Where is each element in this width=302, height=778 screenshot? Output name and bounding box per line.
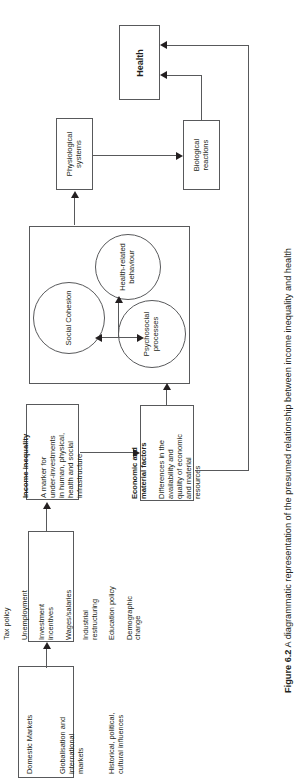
node-social-cohesion-label: Social Cohesion (65, 284, 74, 352)
node-contributors-item-7: Demographic change (125, 534, 142, 640)
node-determinants: Determinants of income inequality Govern… (18, 666, 74, 778)
node-income-inequality: Income inequality A marker for under-inv… (26, 404, 79, 500)
node-determinants-item-0: Government (0, 670, 2, 774)
node-contributors-text: Contributors to income inequality Welfar… (0, 534, 151, 640)
figure-caption-text: A diagrammatic representation of the pre… (283, 248, 293, 647)
edge-income-to-economic (80, 452, 134, 453)
edge-determinants-to-contributors (46, 648, 47, 668)
figure-caption-number: Figure 6.2 (283, 649, 293, 692)
edge-contributors-to-income-inequality (46, 508, 47, 532)
spacer-1 (44, 670, 51, 774)
node-health-related-behaviour-label: Health-related behaviour (119, 236, 137, 298)
cluster-connector-horizontal (100, 337, 138, 338)
edge-physiological-to-biological-arrow (176, 152, 183, 160)
edge-cluster-to-physiological (74, 197, 75, 225)
edge-economic-to-cluster-arrow (163, 383, 171, 390)
node-income-inequality-title: Income inequality (21, 406, 30, 498)
edge-economic-to-health-arrow (160, 41, 167, 49)
node-determinants-item-3: Historical, political, cultural influenc… (108, 670, 125, 774)
node-determinants-item-2: Globalisation and international markets (59, 670, 85, 774)
cluster-connector-vertical (118, 302, 119, 338)
node-contributors-item-3: Investment incentives (38, 534, 55, 640)
node-contributors-item-4: Wages/salaries (64, 534, 73, 640)
edge-economic-to-health-horizontal-upper (167, 45, 249, 46)
edge-physiological-to-biological (93, 155, 177, 156)
node-contributors: Contributors to income inequality Welfar… (28, 531, 74, 642)
node-income-inequality-body: A marker for under-investments in human,… (39, 406, 84, 498)
edge-determinants-to-contributors-arrow (43, 642, 51, 649)
node-determinants-text: Determinants of income inequality Govern… (0, 670, 134, 774)
edge-economic-to-cluster (166, 389, 167, 406)
edge-biological-to-health-horizontal (167, 75, 202, 76)
node-social-cohesion: Social Cohesion (33, 282, 105, 354)
node-physiological-systems: Physiological systems (56, 118, 93, 190)
edge-biological-to-health-arrow (160, 71, 167, 79)
node-physiological-systems-label: Physiological systems (66, 120, 84, 188)
node-economic-material-factors-body: Differences in the availability and qual… (158, 407, 203, 499)
node-contributors-item-2: Unemployment (20, 534, 29, 640)
node-biological-reactions: Biological reactions (183, 120, 220, 190)
node-biological-reactions-label: Biological reactions (193, 122, 211, 188)
edge-contributors-to-income-inequality-arrow (43, 502, 51, 509)
figure-caption: Figure 6.2 A diagrammatic representation… (276, 0, 302, 765)
node-psychosocial-processes: Psychosocial processes (118, 300, 186, 368)
node-psychosocial-processes-label: Psychosocial processes (143, 302, 161, 366)
edge-economic-to-health-horizontal-lower (195, 470, 248, 471)
node-contributors-item-5: Industrial restructuring (82, 534, 99, 640)
node-economic-material-factors: Economic and material factors Difference… (140, 405, 194, 501)
edge-biological-to-health-vertical (201, 75, 202, 121)
node-contributors-item-1: Tax policy (3, 534, 12, 640)
spacer-0 (10, 670, 17, 774)
node-health: Health (119, 25, 160, 100)
node-determinants-item-1: Domestic Markets (26, 670, 35, 774)
edge-economic-to-health-vertical (248, 45, 249, 471)
edge-income-to-economic-arrow (133, 449, 140, 457)
cluster-arrow-up (115, 296, 123, 303)
cluster-arrow-right (137, 334, 144, 342)
spacer-2 (94, 670, 99, 774)
node-contributors-item-6: Education policy (108, 534, 117, 640)
edge-cluster-to-physiological-arrow (71, 191, 79, 198)
node-health-related-behaviour: Health-related behaviour (95, 234, 161, 300)
node-health-label: Health (134, 28, 145, 98)
cluster-arrow-left (95, 334, 102, 342)
